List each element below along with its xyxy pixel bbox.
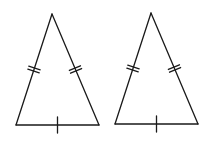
- right-leg: [151, 13, 198, 124]
- right-leg: [52, 14, 99, 125]
- isosceles-triangle-left: [16, 14, 99, 133]
- left-leg: [115, 13, 151, 124]
- isosceles-triangle-right: [115, 13, 198, 132]
- left-leg: [16, 14, 52, 125]
- diagram-canvas: [0, 0, 208, 144]
